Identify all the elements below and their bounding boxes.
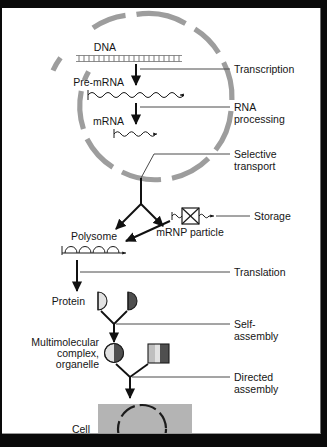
rna-processing-label-line2: processing <box>234 113 285 125</box>
protein-label: Protein <box>52 295 85 307</box>
directed-assembly-label-line1: Directed <box>234 371 273 383</box>
directed-assembly-label-line2: assembly <box>234 383 279 395</box>
self-assembly-label-line2: assembly <box>234 330 279 342</box>
complex-circle-shape <box>105 344 124 363</box>
transcription-label: Transcription <box>234 63 294 75</box>
self-assembly-fork <box>101 311 127 342</box>
dna-strand <box>76 56 182 62</box>
polysome-label: Polysome <box>71 230 117 242</box>
mrna-strand <box>114 129 157 138</box>
gene-expression-diagram: DNA Pre-mRNA mRNA <box>2 8 320 433</box>
storage-label: Storage <box>254 210 291 222</box>
protein-subunit-light <box>98 292 107 310</box>
pre-mrna-strand <box>88 90 184 100</box>
nuclear-export-path <box>116 178 163 229</box>
selective-transport-label-line2: transport <box>234 160 276 172</box>
mrnp-particle-shape <box>172 208 214 224</box>
complex-label-line3: organelle <box>56 358 99 370</box>
protein-subunit-dark <box>128 292 137 310</box>
pre-mrna-label: Pre-mRNA <box>73 76 124 88</box>
diagram-canvas: DNA Pre-mRNA mRNA <box>2 8 321 434</box>
cell-shape <box>98 404 192 433</box>
selective-transport-label-line1: Selective <box>234 148 277 160</box>
translation-label: Translation <box>234 266 286 278</box>
directed-assembly-fork <box>116 364 148 398</box>
nuclear-envelope <box>53 13 232 179</box>
rna-processing-label-line1: RNA <box>234 101 256 113</box>
dna-label: DNA <box>94 41 116 53</box>
figure-root: DNA Pre-mRNA mRNA <box>0 0 327 447</box>
complex-rect-shape <box>148 344 169 363</box>
cell-label: Cell <box>72 423 90 433</box>
mrna-label: mRNA <box>93 115 124 127</box>
self-assembly-label-line1: Self- <box>234 318 256 330</box>
polysome-shape <box>62 246 126 255</box>
mrnp-particle-label: mRNP particle <box>156 226 224 238</box>
